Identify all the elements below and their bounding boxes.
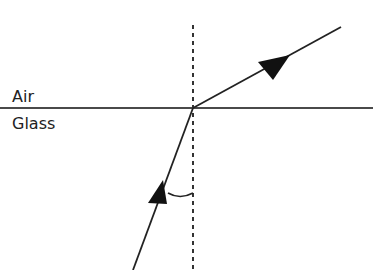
angle-arc [168,193,193,197]
refraction-diagram [0,0,373,270]
medium-label-air: Air [12,89,34,105]
refracted-arrow-icon [258,55,290,80]
medium-label-glass: Glass [12,116,55,132]
